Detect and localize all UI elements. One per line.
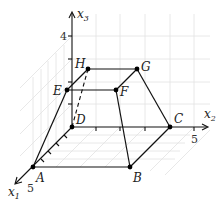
point-d — [70, 125, 75, 130]
point-g — [135, 67, 140, 72]
label-f: F — [119, 85, 129, 99]
coordinate-diagram: A B C D E F G H x3 x2 x1 4 5 5 — [0, 0, 221, 199]
label-b: B — [132, 171, 142, 185]
label-e: E — [52, 84, 62, 98]
edge-c-g — [137, 69, 170, 127]
x1-tick-label: 5 — [27, 182, 34, 195]
label-d: D — [75, 113, 86, 127]
x2-axis-label: x2 — [204, 107, 216, 123]
label-c: C — [174, 112, 183, 126]
label-g: G — [141, 60, 151, 74]
axes — [15, 12, 208, 184]
x1-axis-label: x1 — [8, 185, 20, 199]
label-a: A — [35, 171, 45, 185]
x3-axis-label: x3 — [77, 7, 89, 23]
point-e — [65, 88, 70, 93]
x2-tick-label: 5 — [191, 133, 198, 146]
label-h: H — [74, 57, 86, 71]
point-c — [168, 125, 173, 130]
x3-tick-label: 4 — [60, 30, 67, 43]
edge-a-e — [33, 90, 67, 167]
point-b — [128, 165, 133, 170]
point-f — [114, 88, 119, 93]
point-h — [86, 67, 91, 72]
point-a — [31, 165, 36, 170]
edge-b-c — [130, 127, 170, 167]
